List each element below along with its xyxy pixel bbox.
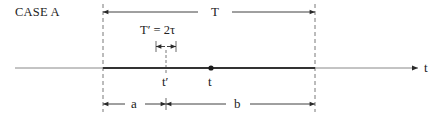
segment-a-label: a [131,97,137,110]
t-prime-label: t′ [162,75,168,88]
sub-interval-label: T′ = 2τ [140,24,175,37]
time-axis-label: t [424,61,428,74]
segment-b-label: b [234,97,241,110]
t-point-dot [208,65,213,70]
timeline-diagram [0,0,438,126]
t-point-label: t [208,75,212,88]
total-interval-label: T [211,5,219,18]
